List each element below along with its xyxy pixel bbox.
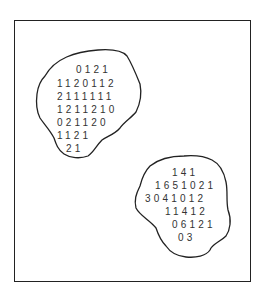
digit-row: 21 [66, 144, 84, 154]
digit-row: 1651021 [155, 181, 216, 191]
digit-row: 1121 [57, 131, 91, 141]
digit-row: 06121 [172, 220, 216, 230]
digit-row: 021120 [57, 118, 109, 128]
digit-row: 2111111 [57, 92, 115, 102]
digit-row: 1120112 [57, 79, 117, 89]
digit-row: 0121 [76, 65, 111, 75]
digit-row: 03 [178, 233, 196, 243]
digit-row: 1211210 [57, 105, 118, 115]
digit-row: 3041012 [145, 194, 206, 204]
region-outlines [0, 0, 265, 299]
digit-row: 11412 [165, 207, 208, 217]
digit-row: 141 [172, 168, 198, 178]
